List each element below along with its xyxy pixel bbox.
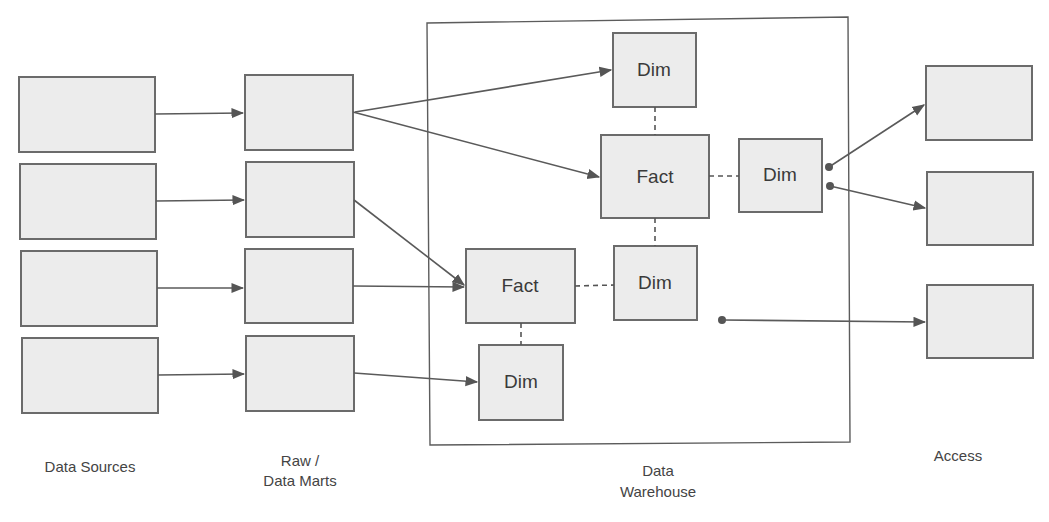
raw-box-2 bbox=[246, 162, 354, 237]
arrow-warehouse-access3 bbox=[722, 320, 925, 322]
label-data-sources: Data Sources bbox=[45, 458, 136, 475]
arrow-raw4-dimbottom bbox=[354, 373, 477, 382]
dim-middle-label: Dim bbox=[638, 272, 672, 293]
fact-main-label: Fact bbox=[637, 166, 675, 187]
arrow-source1-raw1 bbox=[155, 113, 243, 114]
label-raw-line2: Data Marts bbox=[263, 472, 336, 489]
access-box-3 bbox=[927, 285, 1033, 358]
label-raw-line1: Raw / bbox=[281, 452, 320, 469]
arrow-dimright-access2 bbox=[830, 186, 925, 208]
source-box-2 bbox=[20, 164, 156, 239]
arrow-source4-raw4 bbox=[158, 374, 244, 375]
label-access: Access bbox=[934, 447, 982, 464]
fact-secondary-label: Fact bbox=[502, 275, 540, 296]
access-box-1 bbox=[926, 66, 1032, 140]
arrow-raw2-factsecondary bbox=[354, 200, 464, 285]
arrow-raw1-dimtop bbox=[355, 70, 611, 112]
raw-box-1 bbox=[245, 75, 353, 150]
arrow-dimright-access1 bbox=[829, 105, 924, 167]
source-box-3 bbox=[21, 251, 157, 326]
raw-box-3 bbox=[245, 249, 353, 323]
source-box-4 bbox=[22, 338, 158, 413]
arrow-raw3-factsecondary bbox=[353, 286, 464, 287]
dim-right-label: Dim bbox=[763, 164, 797, 185]
arrow-raw1-factmain bbox=[353, 112, 599, 177]
relation-factsecondary-dimmiddle bbox=[575, 285, 614, 286]
label-warehouse-line1: Data bbox=[642, 462, 674, 479]
data-warehouse-architecture-diagram: Dim Fact Dim Fact Dim Dim Data Sources R… bbox=[0, 0, 1049, 522]
source-box-1 bbox=[19, 77, 155, 152]
dim-bottom-label: Dim bbox=[504, 371, 538, 392]
arrow-source2-raw2 bbox=[156, 200, 244, 201]
access-box-2 bbox=[927, 172, 1033, 245]
dim-top-label: Dim bbox=[637, 59, 671, 80]
label-warehouse-line2: Warehouse bbox=[620, 483, 696, 500]
raw-box-4 bbox=[246, 336, 354, 411]
